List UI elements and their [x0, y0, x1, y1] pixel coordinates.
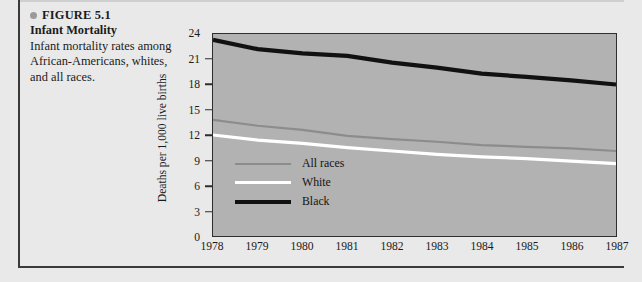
legend-swatch [235, 181, 291, 184]
y-tick-label: 21 [174, 52, 200, 65]
chart-legend: All racesWhiteBlack [235, 154, 344, 211]
x-tick-label: 1978 [200, 240, 223, 253]
y-tick-mark [205, 58, 212, 60]
legend-swatch [235, 163, 291, 165]
x-tick-label: 1981 [335, 240, 358, 253]
y-tick-mark [205, 185, 212, 187]
x-tick-label: 1979 [245, 240, 268, 253]
x-tick-label: 1983 [425, 240, 448, 253]
chart-container: Deaths per 1,000 live births 03691215182… [150, 20, 630, 260]
frame-left-border [18, 0, 20, 268]
x-tick-label: 1985 [515, 240, 538, 253]
legend-item: Black [235, 192, 344, 211]
legend-label: All races [302, 156, 344, 171]
legend-item: All races [235, 154, 344, 173]
y-tick-label: 18 [174, 78, 200, 91]
y-tick-label: 9 [174, 154, 200, 167]
x-tick-label: 1982 [380, 240, 403, 253]
y-tick-mark [205, 134, 212, 136]
y-tick-mark [205, 83, 212, 85]
legend-label: Black [302, 194, 330, 209]
y-tick-mark [205, 109, 212, 111]
y-tick-label: 6 [174, 180, 200, 193]
figure-number: FIGURE 5.1 [42, 8, 111, 23]
x-tick-label: 1987 [605, 240, 628, 253]
x-tick-label: 1984 [470, 240, 493, 253]
figure-page: FIGURE 5.1 Infant Mortality Infant morta… [0, 0, 642, 282]
y-tick-label: 24 [174, 27, 200, 40]
x-tick-label: 1980 [290, 240, 313, 253]
plot-area: All racesWhiteBlack [212, 33, 617, 237]
series-line-all-races [213, 120, 616, 151]
frame-top-edge [18, 0, 624, 2]
y-axis-ticks: 03691215182124 [150, 20, 212, 252]
legend-swatch [235, 200, 291, 204]
legend-label: White [302, 175, 331, 190]
y-tick-label: 3 [174, 205, 200, 218]
series-line-black [213, 40, 616, 85]
bullet-dot-icon [30, 12, 37, 19]
y-tick-mark [205, 211, 212, 213]
y-tick-mark [205, 160, 212, 162]
y-tick-label: 15 [174, 103, 200, 116]
legend-item: White [235, 173, 344, 192]
y-tick-label: 12 [174, 129, 200, 142]
frame-bottom-border [18, 266, 624, 268]
y-tick-label: 0 [174, 231, 200, 244]
x-tick-label: 1986 [560, 240, 583, 253]
